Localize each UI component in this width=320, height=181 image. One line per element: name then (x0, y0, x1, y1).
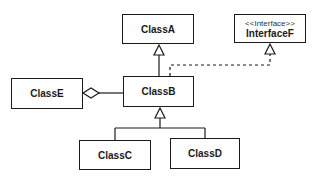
realization-line-b-f (170, 54, 270, 76)
class-name: ClassD (188, 148, 222, 159)
class-d-box[interactable]: ClassD (170, 138, 240, 169)
class-name: InterfaceF (246, 28, 294, 39)
stereotype-label: <<Interface>> (245, 19, 295, 28)
class-name: ClassA (141, 24, 175, 35)
uml-class-diagram: ClassA <<Interface>> InterfaceF ClassE C… (0, 0, 320, 181)
class-b-box[interactable]: ClassB (123, 76, 194, 107)
class-e-box[interactable]: ClassE (11, 78, 83, 109)
class-name: ClassC (98, 150, 132, 161)
interface-f-box[interactable]: <<Interface>> InterfaceF (234, 14, 306, 43)
class-c-box[interactable]: ClassC (79, 140, 151, 170)
class-a-box[interactable]: ClassA (122, 14, 194, 44)
generalization-arrow-a-icon (154, 45, 164, 55)
realization-arrow-f-icon (265, 44, 275, 54)
class-name: ClassB (142, 86, 176, 97)
class-name: ClassE (30, 88, 63, 99)
generalization-arrow-b-icon (155, 108, 165, 118)
aggregation-diamond-icon (83, 88, 99, 98)
